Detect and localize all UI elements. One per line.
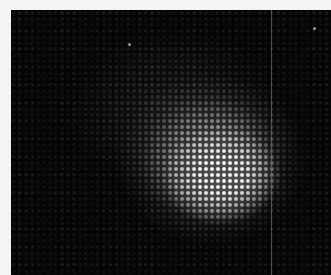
speck bbox=[128, 43, 131, 46]
halftone-dot-grid bbox=[11, 10, 331, 275]
speck bbox=[313, 27, 316, 30]
vertical-line-artifact bbox=[271, 10, 272, 275]
photo-frame bbox=[11, 10, 331, 275]
